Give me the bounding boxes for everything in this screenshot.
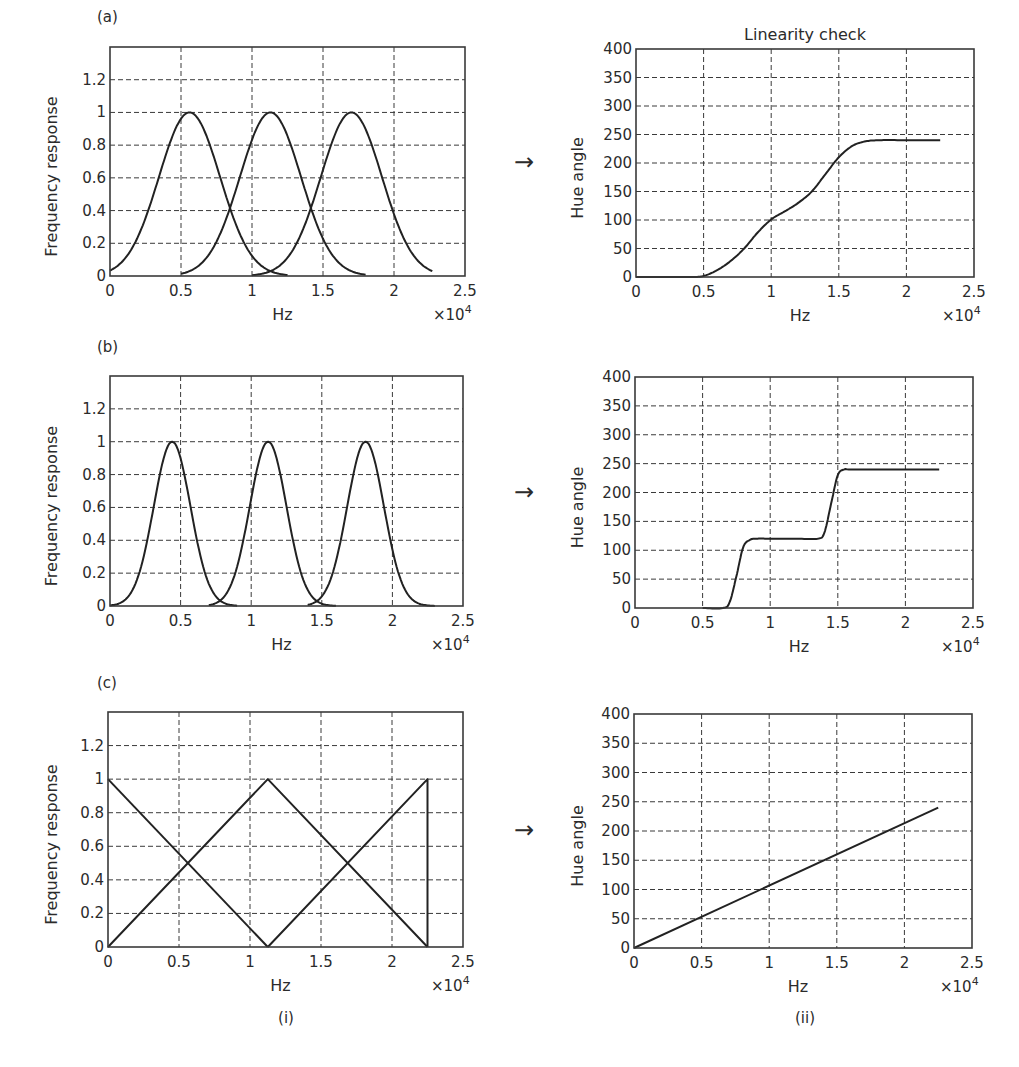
x-tick-label: 2.5 xyxy=(453,282,477,300)
series-line xyxy=(108,779,428,947)
x-axis-multiplier: ×104 xyxy=(940,975,979,996)
chart-a-ii: 00.511.522.5050100150200250300350400Hz×1… xyxy=(568,40,986,325)
data-series xyxy=(703,469,940,608)
x-tick-label: 1 xyxy=(246,612,256,630)
y-tick-label: 250 xyxy=(601,793,630,811)
y-tick-label: 350 xyxy=(603,69,632,87)
x-axis-multiplier: ×104 xyxy=(431,633,470,654)
y-tick-label: 0 xyxy=(621,599,631,617)
x-tick-label: 1.5 xyxy=(310,612,334,630)
y-tick-label: 0 xyxy=(620,939,630,957)
x-tick-label: 1.5 xyxy=(825,954,849,972)
x-axis-multiplier: ×104 xyxy=(431,974,470,995)
plot-frame xyxy=(110,376,463,606)
y-tick-label: 50 xyxy=(613,240,632,258)
y-tick-label: 1 xyxy=(96,103,106,121)
y-axis-label: Hue angle xyxy=(568,137,587,219)
x-tick-label: 0.5 xyxy=(690,954,714,972)
series-line xyxy=(209,442,336,606)
x-tick-label: 0.5 xyxy=(167,953,191,971)
y-tick-label: 1.2 xyxy=(80,737,104,755)
tick-labels: 00.511.522.500.20.40.60.811.2 xyxy=(82,400,475,630)
figure: 00.511.522.500.20.40.60.811.2Hz×104Frequ… xyxy=(0,0,1019,1067)
y-tick-label: 0.2 xyxy=(82,564,106,582)
x-tick-label: 0.5 xyxy=(691,614,715,632)
column-label-i: (i) xyxy=(278,1009,294,1027)
x-tick-label: 0.5 xyxy=(169,612,193,630)
y-tick-label: 0.2 xyxy=(80,904,104,922)
panel-label-b: (b) xyxy=(97,338,118,356)
grid-lines xyxy=(110,376,463,606)
data-series xyxy=(110,442,435,606)
y-tick-label: 0 xyxy=(94,938,104,956)
y-tick-label: 0 xyxy=(96,597,106,615)
series-line xyxy=(181,112,366,274)
y-tick-label: 250 xyxy=(602,455,631,473)
y-tick-label: 100 xyxy=(603,211,632,229)
x-axis-label: Hz xyxy=(271,635,291,654)
data-series xyxy=(636,140,940,277)
tick-labels: 00.511.522.5050100150200250300350400 xyxy=(601,705,984,972)
x-tick-label: 1 xyxy=(245,953,255,971)
y-tick-label: 250 xyxy=(603,126,632,144)
y-tick-label: 0.6 xyxy=(82,498,106,516)
y-tick-label: 0.2 xyxy=(82,234,106,252)
x-axis-label: Hz xyxy=(270,976,290,995)
y-tick-label: 200 xyxy=(602,484,631,502)
grid-lines xyxy=(636,49,974,277)
x-tick-label: 2.5 xyxy=(960,954,984,972)
panel-label-c: (c) xyxy=(97,674,117,692)
x-tick-label: 2 xyxy=(901,614,911,632)
y-tick-label: 200 xyxy=(601,822,630,840)
y-tick-label: 0.4 xyxy=(82,202,106,220)
x-tick-label: 0 xyxy=(630,614,640,632)
data-series xyxy=(110,112,432,275)
y-tick-label: 350 xyxy=(601,734,630,752)
series-line xyxy=(252,112,432,275)
x-axis-label: Hz xyxy=(789,637,809,656)
y-tick-label: 100 xyxy=(601,881,630,899)
series-line xyxy=(636,140,940,277)
y-axis-label: Frequency response xyxy=(42,426,61,586)
y-tick-label: 1.2 xyxy=(82,400,106,418)
y-tick-label: 50 xyxy=(612,570,631,588)
x-tick-label: 2 xyxy=(389,282,399,300)
x-axis-multiplier: ×104 xyxy=(942,304,981,325)
y-tick-label: 150 xyxy=(601,851,630,869)
y-tick-label: 50 xyxy=(611,910,630,928)
y-tick-label: 1.2 xyxy=(82,71,106,89)
chart-c-i: 00.511.522.500.20.40.60.811.2Hz×104Frequ… xyxy=(42,712,475,995)
x-tick-label: 2.5 xyxy=(451,612,475,630)
x-tick-label: 0 xyxy=(103,953,113,971)
x-tick-label: 1 xyxy=(247,282,257,300)
arrow-right-icon: → xyxy=(514,148,534,176)
grid-lines xyxy=(108,712,463,947)
y-tick-label: 0.6 xyxy=(82,169,106,187)
y-tick-label: 300 xyxy=(602,426,631,444)
x-tick-label: 1 xyxy=(766,283,776,301)
x-tick-label: 2 xyxy=(900,954,910,972)
y-tick-label: 400 xyxy=(603,40,632,58)
y-tick-label: 0.6 xyxy=(80,837,104,855)
y-axis-label: Frequency response xyxy=(42,764,61,924)
series-line xyxy=(110,442,237,606)
x-tick-label: 1.5 xyxy=(311,282,335,300)
charts-layer: 00.511.522.500.20.40.60.811.2Hz×104Frequ… xyxy=(42,40,986,996)
x-tick-label: 1.5 xyxy=(827,283,851,301)
series-line xyxy=(703,469,940,608)
grid-lines xyxy=(635,377,973,608)
x-axis-label: Hz xyxy=(790,306,810,325)
y-tick-label: 400 xyxy=(601,705,630,723)
y-tick-label: 0.4 xyxy=(82,531,106,549)
x-tick-label: 2 xyxy=(388,612,398,630)
x-tick-label: 0 xyxy=(631,283,641,301)
chart-b-ii: 00.511.522.5050100150200250300350400Hz×1… xyxy=(568,368,985,656)
chart-c-ii: 00.511.522.5050100150200250300350400Hz×1… xyxy=(568,705,984,996)
y-tick-label: 0 xyxy=(622,268,632,286)
series-line xyxy=(634,808,938,948)
y-axis-label: Frequency response xyxy=(42,96,61,256)
y-tick-label: 0.8 xyxy=(82,466,106,484)
x-tick-label: 0 xyxy=(629,954,639,972)
series-line xyxy=(308,442,435,606)
y-tick-label: 0 xyxy=(96,267,106,285)
